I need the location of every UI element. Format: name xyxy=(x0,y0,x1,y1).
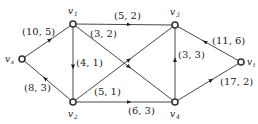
node-label-v3: v xyxy=(170,7,175,17)
edge-label-v2-v4: (6, 3) xyxy=(128,105,155,116)
node-v2 xyxy=(70,99,76,105)
node-subscript-v4: 4 xyxy=(175,113,180,120)
node-v4 xyxy=(172,99,178,105)
edge-label-v4-vt: (17, 2) xyxy=(220,76,253,87)
node-label-v1: v xyxy=(68,6,73,16)
node-subscript-vs: s xyxy=(11,58,14,65)
node-vs xyxy=(19,56,25,62)
edge-v2-vs xyxy=(22,59,73,102)
node-label-v4: v xyxy=(170,109,175,119)
node-v3 xyxy=(172,22,178,28)
node-vt xyxy=(238,59,244,65)
edge-label-v2-vs: (8, 3) xyxy=(24,82,51,93)
edge-labels-layer: (10, 5)(8, 3)(4, 1)(5, 2)(3, 2)(5, 1)(6,… xyxy=(22,10,253,116)
edge-label-v1-v4: (3, 2) xyxy=(90,28,117,39)
edge-label-vt-v3: (11, 6) xyxy=(212,35,245,46)
flow-network-diagram: (10, 5)(8, 3)(4, 1)(5, 2)(3, 2)(5, 1)(6,… xyxy=(0,0,258,124)
edge-label-vs-v1: (10, 5) xyxy=(22,26,55,37)
edge-label-v1-v3: (5, 2) xyxy=(114,10,141,21)
node-subscript-v3: 3 xyxy=(176,11,180,18)
node-label-vs: v xyxy=(5,54,10,64)
nodes-layer: vsv1v2v3v4vt xyxy=(5,6,256,120)
edge-label-v2-v3: (5, 1) xyxy=(94,86,121,97)
node-v1 xyxy=(70,21,76,27)
node-subscript-vt: t xyxy=(253,61,256,68)
node-subscript-v1: 1 xyxy=(74,10,78,17)
edge-label-v1-v2: (4, 1) xyxy=(76,57,103,68)
node-label-vt: v xyxy=(247,57,252,67)
edge-label-v4-v3: (3, 3) xyxy=(178,49,205,60)
node-subscript-v2: 2 xyxy=(73,113,78,120)
edge-v1-v3 xyxy=(73,24,175,25)
node-label-v2: v xyxy=(68,109,73,119)
